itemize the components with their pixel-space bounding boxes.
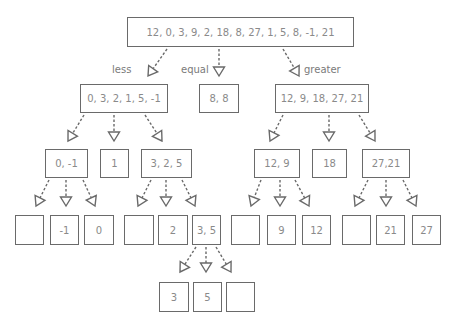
leaf-node: -1 bbox=[50, 215, 79, 245]
dashed-edge bbox=[283, 49, 294, 68]
dashed-edge bbox=[274, 115, 283, 133]
tree-node: 27,21 bbox=[362, 149, 410, 178]
arrowhead-icon bbox=[86, 196, 96, 206]
edge bbox=[295, 180, 310, 206]
edge bbox=[182, 180, 196, 206]
arrowhead-icon bbox=[214, 67, 225, 76]
edge bbox=[249, 180, 261, 206]
root-node: 12, 0, 3, 9, 2, 18, 8, 27, 1, 5, 8, -1, … bbox=[127, 17, 354, 47]
edge bbox=[68, 115, 84, 141]
dashed-edge bbox=[359, 115, 370, 133]
empty-leaf-node bbox=[342, 215, 371, 245]
equal-label: equal bbox=[181, 64, 209, 75]
arrowhead-icon bbox=[61, 197, 72, 206]
edge-root-equal bbox=[214, 49, 225, 76]
edge bbox=[403, 180, 417, 206]
tree-node: 12, 9 bbox=[254, 149, 300, 178]
dashed-edge bbox=[142, 180, 151, 198]
arrowhead-icon bbox=[109, 132, 120, 141]
empty-leaf-node bbox=[124, 215, 154, 245]
greater-label: greater bbox=[304, 64, 341, 75]
greater-partition-node: 12, 9, 18, 27, 21 bbox=[275, 84, 369, 113]
leaf-node: 21 bbox=[376, 215, 405, 245]
arrowhead-icon bbox=[201, 263, 212, 272]
arrowhead-icon bbox=[381, 197, 392, 206]
leaf-node: 5 bbox=[193, 282, 222, 312]
dashed-edge bbox=[254, 180, 261, 198]
arrowhead-icon bbox=[180, 261, 189, 272]
dashed-edge bbox=[216, 247, 226, 264]
edge bbox=[83, 180, 96, 206]
arrowhead-icon bbox=[275, 197, 286, 206]
dashed-edge bbox=[40, 180, 49, 198]
leaf-node: 3 bbox=[159, 282, 189, 312]
arrowhead-icon bbox=[324, 132, 335, 141]
edge bbox=[269, 115, 283, 141]
tree-node: 18 bbox=[312, 149, 347, 178]
arrowhead-icon bbox=[290, 65, 299, 76]
dashed-edge bbox=[403, 180, 412, 198]
leaf-node: 9 bbox=[267, 215, 296, 245]
edge bbox=[324, 115, 335, 141]
arrowhead-icon bbox=[161, 197, 172, 206]
edge bbox=[61, 180, 72, 206]
edge bbox=[275, 180, 286, 206]
leaf-node: 0 bbox=[84, 215, 114, 245]
equal-partition-node: 8, 8 bbox=[199, 84, 239, 113]
edge bbox=[359, 115, 375, 141]
leaf-node: 27 bbox=[412, 215, 441, 245]
dashed-edge bbox=[153, 49, 167, 69]
edge bbox=[137, 180, 151, 206]
edge bbox=[201, 247, 212, 272]
tree-node: 1 bbox=[100, 149, 129, 178]
edge bbox=[145, 115, 162, 141]
edge bbox=[216, 247, 231, 272]
dashed-edge bbox=[145, 115, 157, 133]
arrowhead-icon bbox=[249, 196, 259, 206]
arrowhead-icon bbox=[152, 130, 162, 141]
edge bbox=[35, 180, 49, 206]
empty-leaf-node bbox=[231, 215, 260, 245]
less-partition-node: 0, 3, 2, 1, 5, -1 bbox=[80, 84, 168, 113]
less-label: less bbox=[112, 64, 131, 75]
dashed-edge bbox=[359, 180, 368, 198]
empty-leaf-node bbox=[226, 282, 255, 312]
dashed-edge bbox=[83, 180, 91, 198]
edge bbox=[381, 180, 392, 206]
edge bbox=[180, 247, 196, 272]
edge-root-less bbox=[148, 49, 167, 76]
leaf-node: 12 bbox=[302, 215, 331, 245]
arrowhead-icon bbox=[148, 65, 158, 76]
dashed-edge bbox=[182, 180, 191, 198]
edge bbox=[109, 115, 120, 141]
dashed-edge bbox=[185, 247, 196, 264]
tree-node: 0, -1 bbox=[45, 149, 88, 178]
leaf-node: 2 bbox=[158, 215, 188, 245]
empty-leaf-node bbox=[15, 215, 44, 245]
dashed-edge bbox=[295, 180, 305, 198]
tree-node: 3, 2, 5 bbox=[141, 149, 192, 178]
edge bbox=[161, 180, 172, 206]
edge-root-greater bbox=[283, 49, 299, 76]
dashed-edge bbox=[73, 115, 84, 133]
tree-node: 3, 5 bbox=[192, 215, 221, 245]
edge bbox=[354, 180, 368, 206]
